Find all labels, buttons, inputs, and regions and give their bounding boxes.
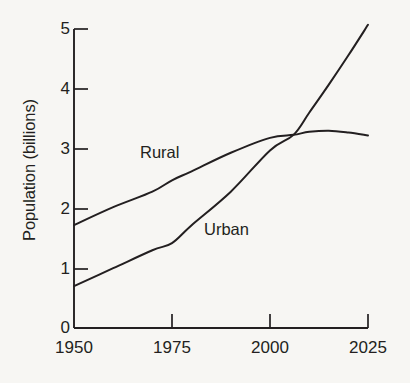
population-line-chart: Population (billions) 5 4 3 2 1 0 1950 1…: [0, 0, 410, 383]
plot-canvas: [0, 0, 410, 383]
line-series-urban: [74, 25, 368, 286]
line-series-rural: [74, 131, 368, 225]
